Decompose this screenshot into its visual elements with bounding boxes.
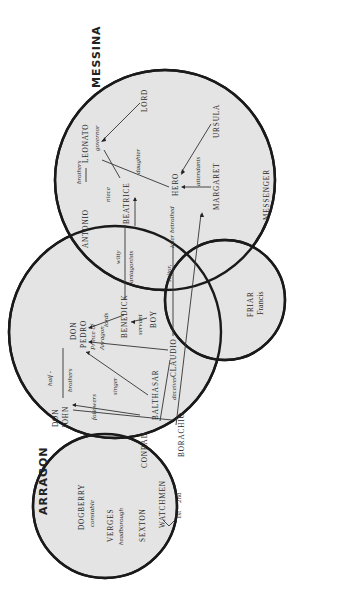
character-leonato: LEONATO [82,124,90,163]
watch-1st: 1st [175,511,183,519]
character-don-john-1: DON [52,409,60,427]
verges-role: headborough [117,507,125,545]
relation-deceiver: deceiver [170,376,178,400]
relation-attendants: attendants [194,157,202,186]
character-friar-name: Francis [256,291,265,315]
character-lord: LORD [141,89,149,112]
character-benedick: BENEDICK [121,294,129,338]
character-friar: FRIAR [247,291,255,317]
relation-witty: witty [114,249,122,264]
character-dogberry: DOGBERRY [78,484,86,530]
character-sexton: SEXTON [139,508,147,542]
relation-lords: lords [102,313,110,327]
region-label-messina: MESSINA [90,25,103,88]
character-don-pedro-2: PEDRO [80,320,88,348]
relation-servant: servant [136,313,144,335]
character-messenger: MESSENGER [263,169,271,220]
relation-brothers-pedro: brothers [66,368,74,392]
don-pedro-title-2: Arragon [98,326,106,351]
relation-governor: governor [93,125,101,151]
character-borachio: BORACHIO [178,412,186,457]
character-don-john-2: JOHN [62,406,70,428]
relation-antagonists: antagonists [127,250,135,283]
character-boy: BOY [150,310,158,328]
relation-niece: niece [104,187,112,202]
relation-followers: followers [90,394,98,420]
character-ursula: URSULA [213,104,221,138]
character-conrad: CONRAD [141,432,149,468]
relation-brothers-leonato: brothers [75,160,83,184]
dogberry-role: constable [88,500,96,527]
relation-half: half - [46,370,54,386]
watch-2nd: 2nd [175,492,183,503]
character-verges: VERGES [107,509,115,542]
character-map-diagram: MESSINA ARRAGON LORD LEONATO governor br… [0,0,340,593]
character-watchmen: WATCHMEN [159,480,167,528]
character-hero: HERO [172,173,180,196]
relation-singer: singer [111,377,119,395]
character-beatrice: BEATRICE [123,182,131,224]
relation-daughter: daughter [134,148,142,174]
character-margaret: MARGARET [213,162,221,210]
relation-suitor: suitor, [165,264,173,282]
character-don-pedro-1: DON [70,322,78,340]
character-antonio: ANTONIO [82,209,90,248]
character-claudio: CLAUDIO [170,338,178,377]
character-balthasar: BALTHASAR [152,369,160,420]
relation-later-betrothed: later betrothed [168,206,176,248]
don-pedro-title-1: Prince of [89,323,97,351]
region-label-arragon: ARRAGON [37,446,50,515]
